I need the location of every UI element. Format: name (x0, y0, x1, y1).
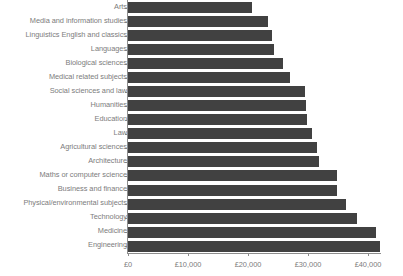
x-axis-tick-label: £0 (101, 260, 155, 270)
bar-row: Law (0, 127, 403, 141)
bar-row: Technology (0, 211, 403, 225)
category-label: Social sciences and law (3, 85, 127, 97)
category-label: Law (3, 127, 127, 139)
bar (128, 199, 346, 210)
bar (128, 86, 305, 97)
bar-row: Social sciences and law (0, 85, 403, 99)
x-axis-tick-label: £20,000 (221, 260, 275, 270)
bar (128, 185, 337, 196)
bar (128, 72, 290, 83)
bar-row: Medicine (0, 225, 403, 239)
category-label: Business and finance (3, 183, 127, 195)
bar-row: Engineering (0, 239, 403, 253)
x-axis-tick (248, 253, 249, 256)
category-label: Biological sciences (3, 57, 127, 69)
x-axis-tick-label: £40,000 (341, 260, 395, 270)
category-label: Maths or computer science (3, 169, 127, 181)
bar-row: Architecture (0, 155, 403, 169)
bar (128, 114, 307, 125)
bar (128, 142, 317, 153)
x-axis-tick-label: £30,000 (281, 260, 335, 270)
bar (128, 156, 319, 167)
bar-row: Agricultural sciences (0, 141, 403, 155)
category-label: Medicine (3, 225, 127, 237)
category-label: Agricultural sciences (3, 141, 127, 153)
bar (128, 58, 283, 69)
x-axis-tick (188, 253, 189, 256)
bar-row: Languages (0, 43, 403, 57)
bar (128, 16, 268, 27)
bar-row: Medical related subjects (0, 71, 403, 85)
bar (128, 44, 274, 55)
bar (128, 170, 337, 181)
x-axis-tick (368, 253, 369, 256)
x-axis-tick (308, 253, 309, 256)
bar-chart: ArtsMedia and information studiesLinguis… (0, 0, 403, 276)
category-label: Physical/environmental subjects (3, 197, 127, 209)
bar-row: Maths or computer science (0, 169, 403, 183)
category-label: Linguistics English and classics (3, 29, 127, 41)
bar-row: Linguistics English and classics (0, 29, 403, 43)
category-label: Technology (3, 211, 127, 223)
bar (128, 30, 272, 41)
bar-row: Biological sciences (0, 57, 403, 71)
bar (128, 241, 380, 252)
category-label: Engineering (3, 239, 127, 251)
category-label: Languages (3, 43, 127, 55)
category-label: Medical related subjects (3, 71, 127, 83)
bar-row: Physical/environmental subjects (0, 197, 403, 211)
bar-row: Media and information studies (0, 15, 403, 29)
bar (128, 213, 357, 224)
bar-row: Arts (0, 1, 403, 15)
category-label: Education (3, 113, 127, 125)
category-label: Media and information studies (3, 15, 127, 27)
x-axis-tick (128, 253, 129, 256)
bar (128, 227, 376, 238)
category-label: Architecture (3, 155, 127, 167)
bar (128, 128, 312, 139)
bar (128, 100, 306, 111)
bar (128, 2, 252, 13)
category-label: Arts (3, 1, 127, 13)
category-label: Humanities (3, 99, 127, 111)
bar-row: Humanities (0, 99, 403, 113)
x-axis-tick-label: £10,000 (161, 260, 215, 270)
plot-area: ArtsMedia and information studiesLinguis… (0, 0, 403, 276)
bar-row: Education (0, 113, 403, 127)
bar-row: Business and finance (0, 183, 403, 197)
